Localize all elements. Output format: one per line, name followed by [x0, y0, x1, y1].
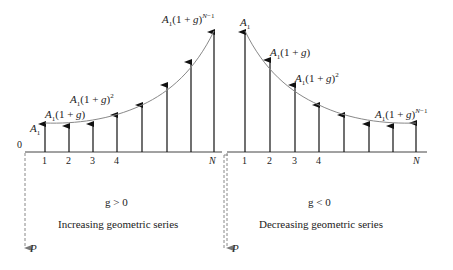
- origin-label: 0: [17, 140, 22, 150]
- tick-3: 3: [292, 156, 297, 166]
- tick-4: 4: [316, 156, 321, 166]
- present-worth-label: P: [30, 243, 37, 254]
- label-A1-1pg: A1(1 + g): [45, 109, 85, 123]
- tick-1: 1: [242, 156, 247, 166]
- tick-1: 1: [42, 156, 47, 166]
- tick-2: 2: [267, 156, 272, 166]
- right-panel: [227, 31, 427, 248]
- label-A1-1pg-Nm1: A1(1 + g)N−1: [162, 13, 214, 28]
- label-A1-1pg-sq: A1(1 + g)2: [295, 72, 339, 87]
- caption-decreasing: Decreasing geometric series: [259, 219, 383, 230]
- tick-2: 2: [66, 156, 71, 166]
- tick-3: 3: [90, 156, 95, 166]
- label-A1: A1: [30, 123, 40, 137]
- tick-N: N: [413, 156, 420, 166]
- present-worth-label: P: [232, 243, 239, 254]
- caption-increasing: Increasing geometric series: [58, 219, 178, 230]
- condition-g-negative: g < 0: [308, 197, 331, 208]
- condition-g-positive: g > 0: [105, 197, 128, 208]
- label-A1-1pg: A1(1 + g): [270, 47, 310, 61]
- tick-N: N: [209, 156, 216, 166]
- label-A1: A1: [240, 17, 250, 31]
- label-A1-1pg-sq: A1(1 + g)2: [70, 93, 114, 108]
- label-A1-1pg-Nm1: A1(1 + g)N−1: [375, 108, 427, 123]
- tick-4: 4: [114, 156, 119, 166]
